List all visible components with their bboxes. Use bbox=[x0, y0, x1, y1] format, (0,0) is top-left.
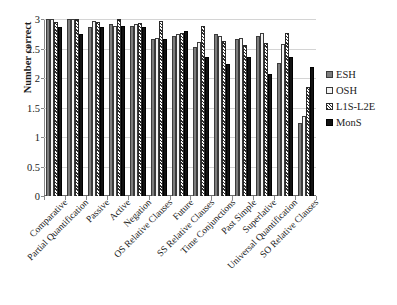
bar-group bbox=[170, 19, 191, 196]
bar-mons[interactable] bbox=[310, 67, 314, 196]
legend-label: ESH bbox=[336, 69, 356, 80]
legend-swatch-icon bbox=[326, 103, 333, 110]
legend-label: L1S-L2E bbox=[336, 101, 375, 112]
bar-mons[interactable] bbox=[205, 57, 209, 196]
bar-group bbox=[86, 19, 107, 196]
bar-mons[interactable] bbox=[268, 74, 272, 196]
legend-item[interactable]: OSH bbox=[326, 82, 396, 98]
bar-mons[interactable] bbox=[226, 64, 230, 196]
bar-group bbox=[274, 19, 295, 196]
bar-group bbox=[211, 19, 232, 196]
bar-group bbox=[232, 19, 253, 196]
y-tick-label: 0.5 bbox=[27, 161, 40, 172]
bar-groups bbox=[44, 19, 316, 196]
y-tick-label: 2.5 bbox=[27, 43, 40, 54]
legend-item[interactable]: ESH bbox=[326, 66, 396, 82]
legend-swatch-icon bbox=[326, 119, 333, 126]
legend-item[interactable]: L1S-L2E bbox=[326, 98, 396, 114]
legend-label: OSH bbox=[336, 85, 357, 96]
bar-group bbox=[149, 19, 170, 196]
y-axis-title: Number correct bbox=[22, 0, 33, 118]
bar-mons[interactable] bbox=[289, 57, 293, 196]
y-tick-label: 0 bbox=[35, 191, 40, 202]
bar-group bbox=[253, 19, 274, 196]
bar-mons[interactable] bbox=[163, 39, 167, 196]
chart-legend: ESHOSHL1S-L2EMonS bbox=[326, 66, 396, 130]
bar-group bbox=[65, 19, 86, 196]
y-tick-label: 1.5 bbox=[27, 102, 40, 113]
legend-label: MonS bbox=[336, 117, 362, 128]
bar-mons[interactable] bbox=[79, 34, 83, 196]
bar-group bbox=[190, 19, 211, 196]
plot-area: 00.511.522.53 bbox=[44, 19, 316, 196]
bar-group bbox=[295, 19, 316, 196]
bar-group bbox=[128, 19, 149, 196]
legend-item[interactable]: MonS bbox=[326, 114, 396, 130]
legend-swatch-icon bbox=[326, 71, 333, 78]
y-tick-label: 2 bbox=[35, 73, 40, 84]
y-tick-label: 1 bbox=[35, 132, 40, 143]
bar-mons[interactable] bbox=[100, 27, 104, 196]
x-axis-labels: ComparativePartial QuantificationPassive… bbox=[44, 198, 316, 303]
bar-mons[interactable] bbox=[121, 26, 125, 196]
y-tick-label: 3 bbox=[35, 14, 40, 25]
bar-group bbox=[44, 19, 65, 196]
bar-chart: Number correct 00.511.522.53 Comparative… bbox=[0, 0, 397, 305]
bar-mons[interactable] bbox=[58, 27, 62, 196]
bar-mons[interactable] bbox=[184, 31, 188, 196]
bar-mons[interactable] bbox=[142, 27, 146, 196]
bar-mons[interactable] bbox=[247, 57, 251, 196]
bar-group bbox=[107, 19, 128, 196]
legend-swatch-icon bbox=[326, 87, 333, 94]
